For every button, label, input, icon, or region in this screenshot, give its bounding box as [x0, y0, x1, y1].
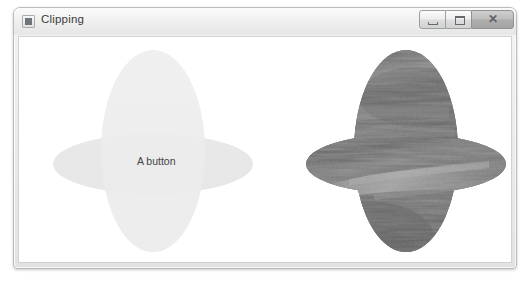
maximize-icon [455, 16, 465, 25]
minimize-icon [428, 22, 438, 25]
title-bar[interactable]: Clipping ✕ [14, 8, 516, 35]
clipped-button[interactable] [19, 37, 266, 263]
application-window: Clipping ✕ [13, 7, 517, 269]
maximize-button[interactable] [445, 10, 472, 29]
window-title: Clipping [41, 13, 84, 25]
button-label: A button [137, 155, 176, 167]
drawing-canvas: A button [19, 37, 511, 262]
app-window-icon [22, 15, 35, 28]
clipped-shapes-svg [19, 37, 512, 263]
clipped-image [294, 37, 512, 263]
close-button[interactable]: ✕ [471, 10, 514, 29]
window-controls: ✕ [420, 9, 514, 30]
screenshot-root: Clipping ✕ [0, 0, 531, 294]
client-area: A button [18, 36, 512, 263]
close-icon: ✕ [472, 11, 513, 28]
minimize-button[interactable] [419, 10, 446, 29]
